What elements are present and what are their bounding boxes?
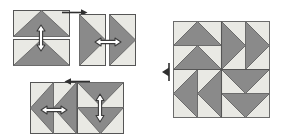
step-3-vertical-seam-arrow-right — [94, 93, 106, 127]
step-4-pressing-arrow-left-icon — [161, 62, 171, 86]
block-quadrant-top-right — [222, 22, 270, 70]
step-4-finished-block — [173, 21, 270, 118]
block-quadrant-bottom-right — [222, 70, 270, 118]
step-1-vertical-seam-arrow — [35, 24, 47, 56]
step-3-horizontal-seam-arrow-left — [40, 102, 68, 120]
quilt-assembly-diagram: Quilt block piecing assembly diagram Dar… — [0, 0, 290, 140]
block-quadrant-bottom-left — [174, 70, 222, 118]
step-2-horizontal-seam-arrow — [94, 34, 122, 52]
step-3-pressing-arrow-left-icon — [64, 72, 90, 90]
block-quadrant-top-left — [174, 22, 222, 70]
